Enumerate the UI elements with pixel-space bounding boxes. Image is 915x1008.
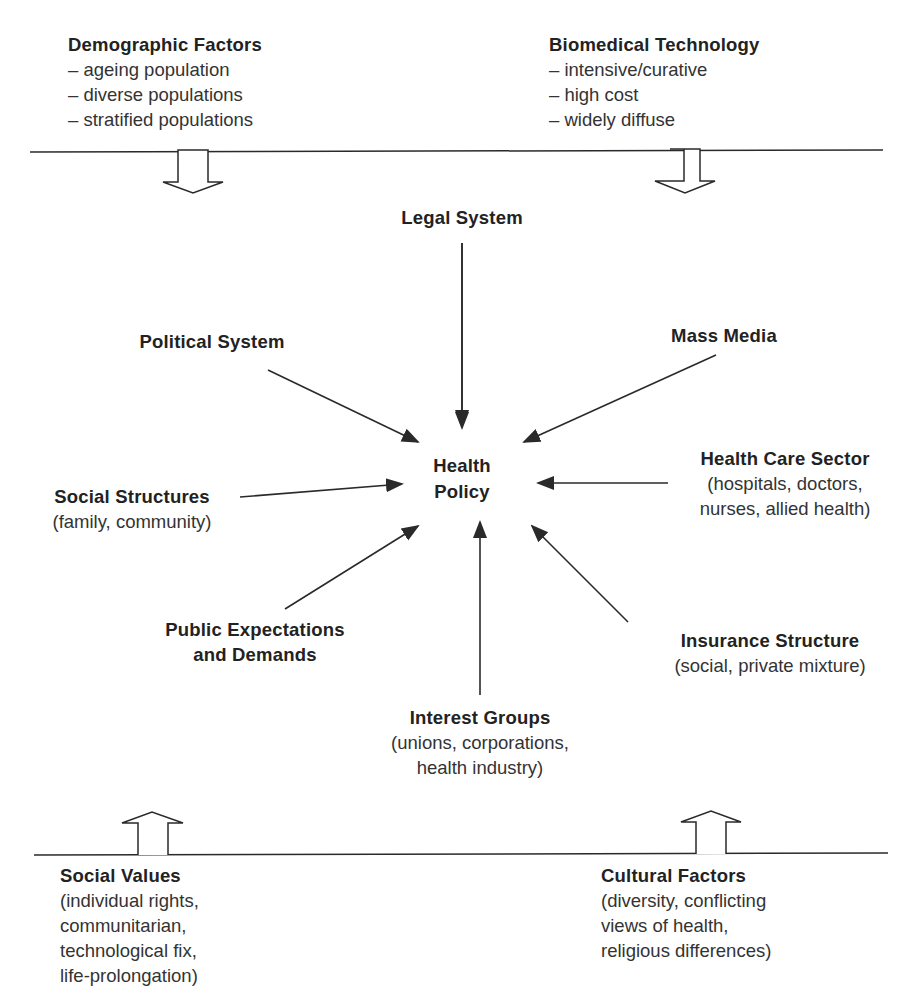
social-values-detail: (individual rights, [60, 888, 199, 913]
demographic-factors-title: Demographic Factors [68, 32, 262, 57]
block-arrow-down-demographic [163, 150, 223, 193]
social-structures-detail: (family, community) [26, 509, 238, 534]
biomedical-item: – intensive/curative [549, 57, 759, 82]
social-values-detail: communitarian, [60, 913, 199, 938]
social-structures-title: Social Structures [26, 484, 238, 509]
demographic-item: – diverse populations [68, 82, 262, 107]
health-care-sector: Health Care Sector (hospitals, doctors, … [672, 446, 898, 521]
mass-media: Mass Media [644, 323, 804, 348]
biomedical-technology-title: Biomedical Technology [549, 32, 759, 57]
political-system-title: Political System [110, 329, 314, 354]
insurance-structure: Insurance Structure (social, private mix… [640, 628, 900, 678]
cultural-factors-detail: religious differences) [601, 938, 771, 963]
block-arrow-up-cultural-factors [681, 811, 741, 854]
social-structures: Social Structures (family, community) [26, 484, 238, 534]
biomedical-item: – widely diffuse [549, 107, 759, 132]
legal-system-title: Legal System [380, 205, 544, 230]
interest-groups-detail: health industry) [360, 755, 600, 780]
legal-system: Legal System [380, 205, 544, 230]
health-care-sector-title: Health Care Sector [672, 446, 898, 471]
arrow-public-expectations [285, 526, 418, 609]
biomedical-technology: Biomedical Technology – intensive/curati… [549, 32, 759, 132]
public-expectations: Public Expectations and Demands [140, 617, 370, 667]
block-arrow-up-social-values [122, 812, 183, 855]
biomedical-item: – high cost [549, 82, 759, 107]
arrow-insurance-structure [532, 526, 628, 622]
health-care-sector-detail: (hospitals, doctors, [672, 471, 898, 496]
social-values: Social Values (individual rights, commun… [60, 863, 199, 988]
cultural-factors: Cultural Factors (diversity, conflicting… [601, 863, 771, 963]
health-policy-center: Health Policy [410, 453, 514, 505]
insurance-structure-title: Insurance Structure [640, 628, 900, 653]
insurance-structure-detail: (social, private mixture) [640, 653, 900, 678]
social-values-title: Social Values [60, 863, 199, 888]
social-values-detail: life-prolongation) [60, 963, 199, 988]
health-policy-title-line2: Policy [410, 479, 514, 505]
public-expectations-title-line1: Public Expectations [140, 617, 370, 642]
health-policy-title-line1: Health [410, 453, 514, 479]
interest-groups: Interest Groups (unions, corporations, h… [360, 705, 600, 780]
interest-groups-detail: (unions, corporations, [360, 730, 600, 755]
demographic-item: – stratified populations [68, 107, 262, 132]
arrow-political-system [268, 370, 418, 442]
cultural-factors-detail: views of health, [601, 913, 771, 938]
arrow-social-structures [240, 484, 402, 497]
mass-media-title: Mass Media [644, 323, 804, 348]
interest-groups-title: Interest Groups [360, 705, 600, 730]
cultural-factors-detail: (diversity, conflicting [601, 888, 771, 913]
cultural-factors-title: Cultural Factors [601, 863, 771, 888]
social-values-detail: technological fix, [60, 938, 199, 963]
top-boundary-line [30, 150, 883, 152]
political-system: Political System [110, 329, 314, 354]
public-expectations-title-line2: and Demands [140, 642, 370, 667]
health-care-sector-detail: nurses, allied health) [672, 496, 898, 521]
demographic-item: – ageing population [68, 57, 262, 82]
block-arrow-down-biomedical [655, 149, 715, 193]
arrow-mass-media [524, 355, 716, 442]
demographic-factors: Demographic Factors – ageing population … [68, 32, 262, 132]
